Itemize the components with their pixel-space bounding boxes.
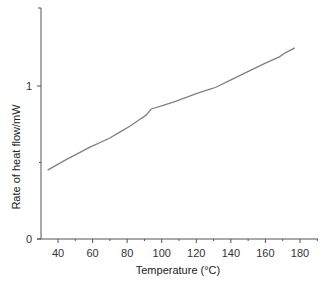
- x-tick-label: 180: [291, 247, 309, 259]
- y-tick-label: 1: [26, 80, 32, 92]
- x-tick-label: 120: [187, 247, 205, 259]
- x-tick-label: 160: [256, 247, 274, 259]
- x-axis-title: Temperature (°C): [136, 264, 220, 276]
- y-axis-title: Rate of heat flow/mW: [10, 104, 22, 210]
- x-tick-label: 80: [121, 247, 133, 259]
- x-tick-label: 40: [52, 247, 64, 259]
- series-line: [48, 48, 295, 170]
- y-axis-ticks: 01: [26, 80, 41, 245]
- y-tick-label: 0: [26, 233, 32, 245]
- x-tick-label: 140: [222, 247, 240, 259]
- x-axis-ticks: 406080100120140160180: [52, 239, 317, 259]
- axes: [37, 8, 318, 239]
- x-tick-label: 100: [153, 247, 171, 259]
- x-tick-label: 60: [86, 247, 98, 259]
- chart: 406080100120140160180 01 Temperature (°C…: [0, 0, 325, 285]
- data-line: [48, 48, 295, 170]
